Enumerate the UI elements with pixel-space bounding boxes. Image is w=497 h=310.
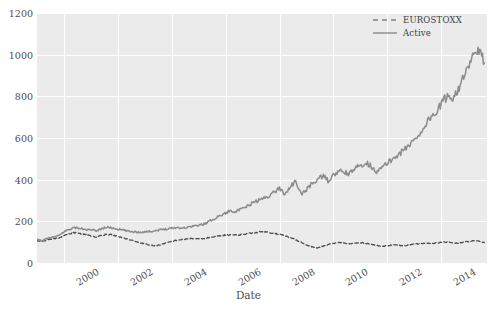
chart-legend: EUROSTOXX Active bbox=[372, 14, 462, 40]
x-axis-label: Date bbox=[0, 289, 497, 301]
legend-swatch-dashed bbox=[372, 15, 398, 25]
legend-item-active: Active bbox=[372, 27, 462, 39]
y-tick-label: 400 bbox=[0, 174, 33, 185]
y-tick-label: 200 bbox=[0, 216, 33, 227]
y-tick-label: 1200 bbox=[0, 8, 33, 19]
y-axis-ticks: 020040060080010001200 bbox=[0, 0, 497, 310]
y-tick-label: 1000 bbox=[0, 49, 33, 60]
legend-label-eurostoxx: EUROSTOXX bbox=[403, 15, 462, 25]
y-tick-label: 0 bbox=[0, 258, 33, 269]
legend-label-active: Active bbox=[403, 28, 431, 38]
chart-figure: 020040060080010001200 200020022004200620… bbox=[0, 0, 497, 310]
legend-item-eurostoxx: EUROSTOXX bbox=[372, 14, 462, 26]
y-tick-label: 600 bbox=[0, 133, 33, 144]
legend-swatch-solid bbox=[372, 28, 398, 38]
y-tick-label: 800 bbox=[0, 91, 33, 102]
